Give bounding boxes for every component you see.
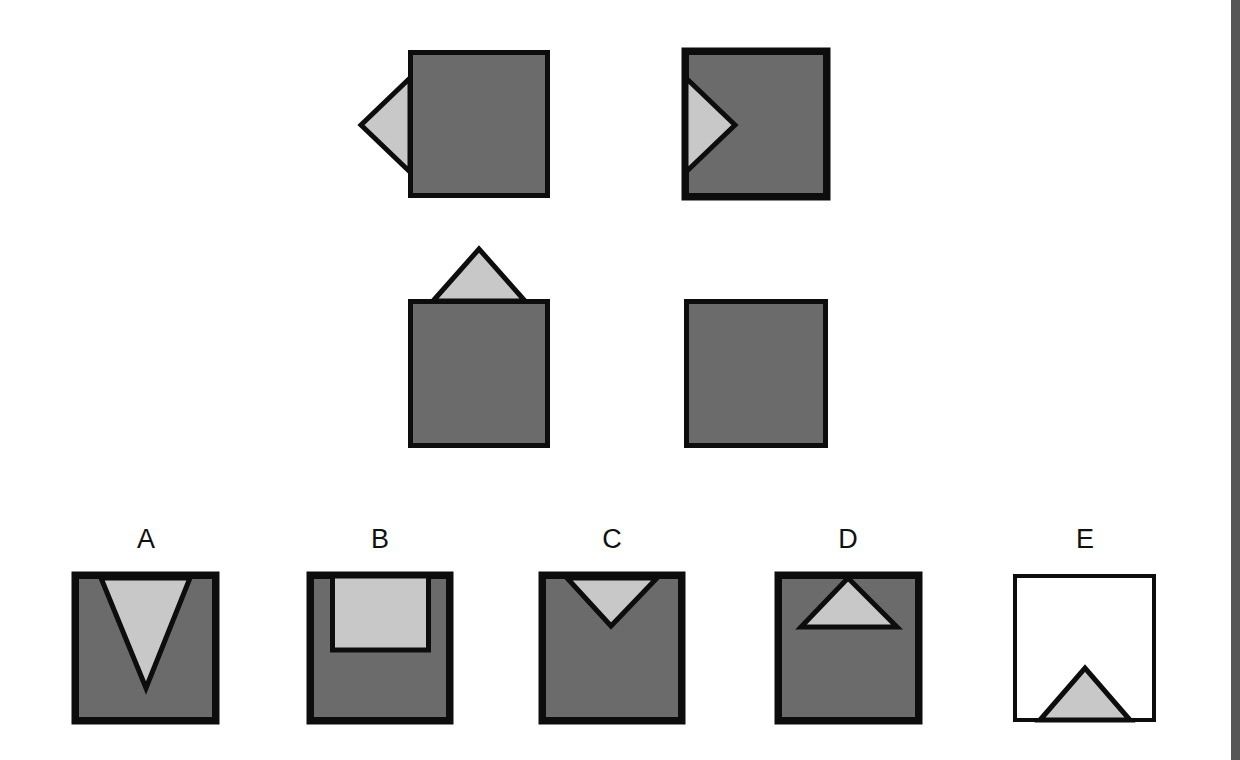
option-b-figure[interactable] xyxy=(309,574,451,722)
question-cell-1 xyxy=(361,53,548,196)
question-cell-4-answer-slot xyxy=(687,302,826,446)
dark-square-shape xyxy=(687,302,826,446)
puzzle-stage: .sq { fill: #6b6b6b; stroke: #0d0d0d; st… xyxy=(0,0,1240,760)
option-c-label[interactable]: C xyxy=(582,526,642,553)
question-cell-2 xyxy=(684,50,828,198)
light-rectangle-shape xyxy=(333,576,429,650)
option-e-label[interactable]: E xyxy=(1055,526,1115,553)
right-edge-strip xyxy=(1231,0,1240,760)
option-e-figure[interactable] xyxy=(1013,576,1156,720)
dark-square-shape xyxy=(411,53,548,196)
triangle-outside-top-shape xyxy=(433,249,525,301)
option-c-figure[interactable] xyxy=(541,574,683,722)
option-a-figure[interactable] xyxy=(74,574,217,722)
option-b-label[interactable]: B xyxy=(350,526,410,553)
puzzle-figure: .sq { fill: #6b6b6b; stroke: #0d0d0d; st… xyxy=(0,0,1240,760)
option-d-figure[interactable] xyxy=(777,574,920,722)
triangle-outside-left-shape xyxy=(361,78,410,172)
dark-square-shape xyxy=(411,302,548,446)
option-d-label[interactable]: D xyxy=(818,526,878,553)
option-a-label[interactable]: A xyxy=(116,526,176,553)
question-cell-3 xyxy=(411,249,548,446)
